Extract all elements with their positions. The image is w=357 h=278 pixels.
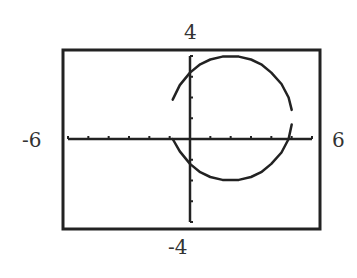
graph-window [0,0,357,278]
axes [68,56,312,222]
